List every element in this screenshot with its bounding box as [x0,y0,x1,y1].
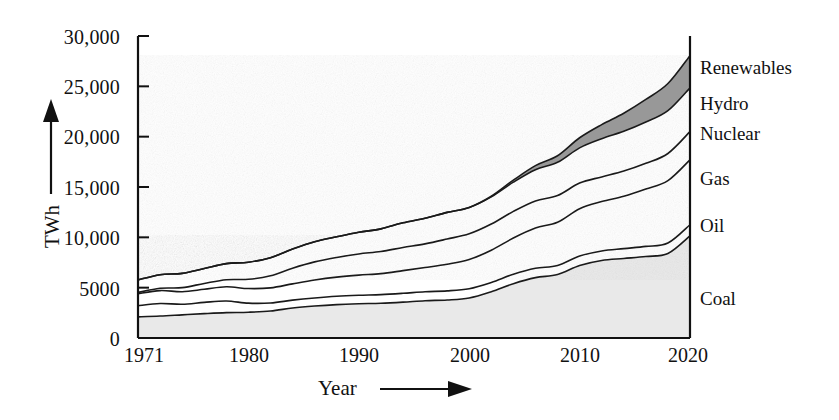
area-bands [138,56,690,338]
stacked-area-plot [0,0,839,420]
chart-figure: 30,000 25,000 20,000 15,000 10,000 5000 … [0,0,839,420]
